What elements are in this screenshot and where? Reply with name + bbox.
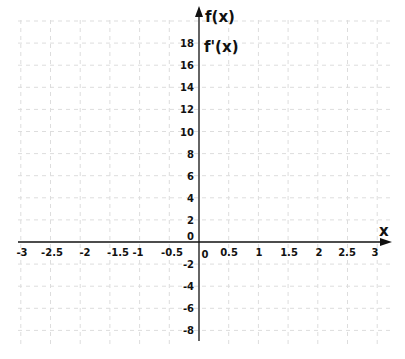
y-tick-label: 2 <box>187 215 194 226</box>
x-tick-label: 1 <box>256 247 263 258</box>
x-tick-label: -2.5 <box>41 247 63 258</box>
y-tick-label: -6 <box>183 303 194 314</box>
x-tick-label: -2 <box>79 247 90 258</box>
x-tick-label: 0.5 <box>220 247 238 258</box>
y-axis-label-f: f(x) <box>205 8 235 26</box>
x-tick-label: 1.5 <box>280 247 298 258</box>
x-tick-label: -1 <box>132 247 143 258</box>
y-tick-label: 10 <box>180 127 194 138</box>
grid-lines <box>18 20 392 345</box>
x-tick-label: -3 <box>16 247 27 258</box>
y-axis-arrow-icon <box>195 6 203 17</box>
coordinate-grid-chart: -3-2.5-2-1.5-1-0.500.511.522.53 18161412… <box>0 0 405 359</box>
y-tick-label: -8 <box>183 325 194 336</box>
x-axis-label: x <box>379 222 389 240</box>
y-tick-label: 18 <box>180 38 194 49</box>
x-tick-label: -0.5 <box>161 247 183 258</box>
y-tick-label: 6 <box>187 171 194 182</box>
y-tick-label: 4 <box>187 193 194 204</box>
y-tick-label: -2 <box>183 259 194 270</box>
y-tick-label: 8 <box>187 149 194 160</box>
y-axis-label-fprime: f'(x) <box>204 38 239 56</box>
x-tick-labels: -3-2.5-2-1.5-1-0.500.511.522.53 <box>16 247 378 260</box>
y-tick-label: 14 <box>180 82 194 93</box>
x-tick-label: 3 <box>372 247 379 258</box>
x-tick-label: 0 <box>202 249 209 260</box>
y-tick-label: 12 <box>180 104 194 115</box>
axes <box>18 6 392 341</box>
x-tick-label: 2.5 <box>338 247 356 258</box>
y-tick-label: 0 <box>187 231 194 242</box>
x-tick-label: -1.5 <box>107 247 129 258</box>
y-tick-label: 16 <box>180 60 194 71</box>
y-tick-labels: 181614121086420-2-4-6-8 <box>180 38 194 336</box>
x-tick-label: 2 <box>316 247 323 258</box>
y-tick-label: -4 <box>183 281 194 292</box>
